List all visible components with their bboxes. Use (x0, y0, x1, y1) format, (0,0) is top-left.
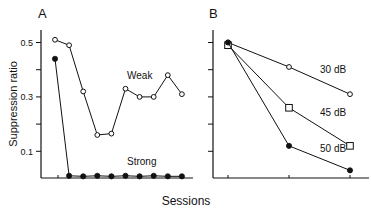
filled-circle-marker (109, 174, 114, 179)
label-strong: Strong (127, 156, 156, 167)
open-circle-marker (123, 86, 128, 91)
x-axis-label: Sessions (162, 194, 211, 208)
filled-circle-marker (67, 173, 72, 178)
filled-circle-marker (286, 143, 291, 148)
label-45db: 45 dB (320, 107, 346, 118)
series-line (228, 45, 350, 146)
filled-circle-marker (179, 174, 184, 179)
panel-a-series (52, 37, 184, 179)
filled-circle-marker (52, 56, 57, 61)
open-circle-marker (165, 73, 170, 78)
open-circle-marker (180, 92, 185, 97)
label-30db: 30 dB (320, 64, 346, 75)
open-circle-marker (95, 133, 100, 138)
panel-a-y-ticks: 0.10.30.5 (20, 38, 41, 157)
filled-circle-marker (95, 173, 100, 178)
figure: A 0.10.30.5 Weak Strong B 30 dB 45 dB 50… (0, 0, 371, 211)
open-circle-marker (348, 92, 353, 97)
open-circle-marker (81, 89, 86, 94)
open-square-marker (286, 104, 293, 111)
open-circle-marker (137, 95, 142, 100)
y-tick-label: 0.1 (20, 147, 33, 157)
filled-circle-marker (137, 174, 142, 179)
panel-b: B 30 dB 45 dB 50 dB (208, 6, 369, 178)
panel-a: A 0.10.30.5 Weak Strong (20, 6, 193, 179)
open-circle-marker (53, 37, 58, 42)
filled-circle-marker (151, 173, 156, 178)
open-square-marker (347, 143, 354, 150)
y-axis-label: Suppression ratio (7, 61, 19, 147)
panel-a-title: A (38, 6, 47, 21)
open-circle-marker (287, 65, 292, 70)
panel-b-y-ticks (208, 43, 213, 152)
y-tick-label: 0.5 (20, 38, 33, 48)
filled-circle-marker (225, 40, 230, 45)
label-50db: 50 dB (320, 143, 346, 154)
open-circle-marker (151, 95, 156, 100)
label-weak: Weak (127, 70, 153, 81)
series-line (55, 59, 182, 177)
filled-circle-marker (81, 174, 86, 179)
series-line (55, 40, 182, 135)
filled-circle-marker (347, 168, 352, 173)
y-tick-label: 0.3 (20, 92, 33, 102)
open-circle-marker (67, 43, 72, 48)
filled-circle-marker (123, 173, 128, 178)
panel-b-title: B (209, 6, 218, 21)
open-circle-marker (109, 131, 114, 136)
filled-circle-marker (165, 174, 170, 179)
